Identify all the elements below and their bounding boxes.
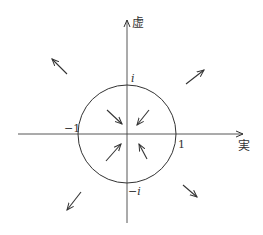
real-axis-label: 実	[238, 140, 250, 152]
arrow-inner-lower-right	[139, 144, 147, 159]
tick-label-minus-one: −1	[64, 123, 80, 134]
arrow-inner-upper-right	[137, 110, 149, 125]
tick-label-minus-i: −i	[128, 186, 141, 197]
arrow-inner-upper-left	[107, 110, 122, 124]
tick-label-one: 1	[178, 139, 185, 150]
arrow-outer-lower-left	[67, 192, 81, 210]
imag-axis-label: 虚	[132, 17, 144, 29]
arrow-outer-upper-left	[52, 59, 67, 74]
arrow-outer-lower-right	[183, 185, 197, 197]
inner-arrows	[106, 110, 149, 161]
complex-plane-diagram	[0, 0, 263, 235]
tick-label-i: i	[131, 73, 135, 84]
arrow-outer-upper-right	[186, 70, 204, 84]
arrow-inner-lower-left	[106, 144, 121, 161]
